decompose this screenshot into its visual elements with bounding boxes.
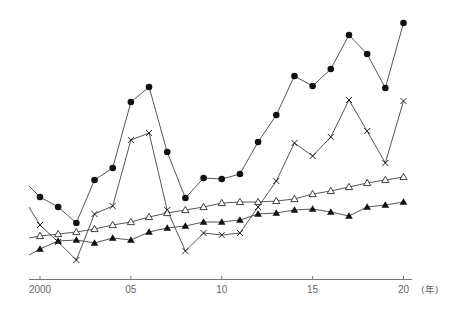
x-tick-label: 20 [398,284,410,295]
x-tick-label: 2000 [29,284,52,295]
data-point-marker [364,51,371,58]
data-point-marker [237,171,244,178]
data-point-marker [310,153,316,159]
x-axis-unit-label: (年) [421,284,438,295]
data-point-marker [218,176,225,183]
data-point-marker [346,32,353,39]
data-point-marker [73,220,80,227]
data-point-marker [400,173,407,179]
data-point-marker [364,128,370,134]
data-point-marker [91,177,98,184]
data-point-marker [200,218,208,225]
x-tick-label: 05 [125,284,137,295]
data-point-marker [36,245,44,252]
line-chart: 200005101520 (年) [0,0,461,317]
data-point-marker [110,203,116,209]
data-point-marker [400,20,407,27]
series-filled-triangle [29,198,407,255]
series-line [29,100,404,260]
data-point-marker [328,134,334,140]
x-tick-label: 15 [307,284,319,295]
data-point-marker [273,112,280,119]
data-point-marker [182,195,189,202]
data-point-marker [291,73,298,80]
data-point-marker [255,139,262,146]
data-point-marker [328,66,335,73]
data-point-marker [400,198,408,205]
data-point-marker [182,248,188,254]
series-line [29,23,404,223]
series-line [29,202,404,255]
series-cross [29,97,407,263]
data-point-marker [55,204,62,211]
x-axis: 200005101520 (年) [29,276,439,295]
data-point-marker [382,160,388,166]
data-point-marker [200,175,207,182]
data-point-marker [309,83,316,90]
data-point-marker [309,205,317,212]
data-point-marker [37,222,43,228]
x-axis-ticks: 200005101520 [29,276,410,295]
data-point-marker [37,194,44,201]
x-tick-label: 10 [216,284,228,295]
data-point-marker [346,97,352,103]
data-point-marker [164,149,171,156]
series-layer [29,20,407,263]
data-point-marker [236,198,243,204]
data-point-marker [273,178,279,184]
data-point-marker [128,99,135,106]
series-open-triangle [29,173,407,238]
data-point-marker [291,140,297,146]
data-point-marker [109,234,117,241]
data-point-marker [128,137,134,143]
data-point-marker [73,236,81,243]
data-point-marker [382,85,389,92]
data-point-marker [73,257,79,263]
series-filled-circle [29,20,407,227]
data-point-marker [92,211,98,217]
data-point-marker [109,165,116,172]
data-point-marker [146,84,153,91]
data-point-marker [146,130,152,136]
data-point-marker [401,98,407,104]
